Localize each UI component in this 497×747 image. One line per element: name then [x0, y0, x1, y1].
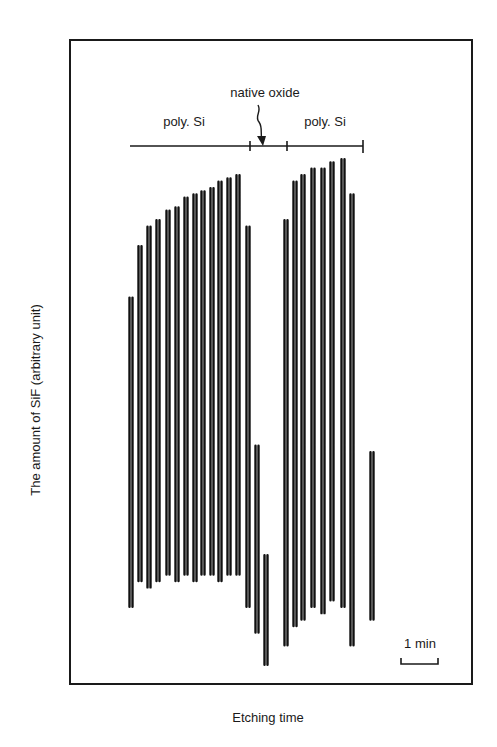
poly-si-right-label: poly. Si: [304, 114, 346, 129]
y-axis-label: The amount of SiF (arbitrary unit): [28, 304, 43, 495]
region-bar: [130, 140, 363, 153]
native-oxide-arrow-icon: [257, 105, 266, 146]
scale-bar-label: 1 min: [404, 636, 436, 651]
scale-bar: [401, 658, 438, 664]
chart-figure: The amount of SiF (arbitrary unit) Etchi…: [0, 0, 497, 747]
native-oxide-label: native oxide: [230, 85, 299, 100]
sif-signal-trace: [130, 159, 374, 665]
x-axis-label: Etching time: [232, 710, 304, 725]
poly-si-left-label: poly. Si: [163, 114, 205, 129]
